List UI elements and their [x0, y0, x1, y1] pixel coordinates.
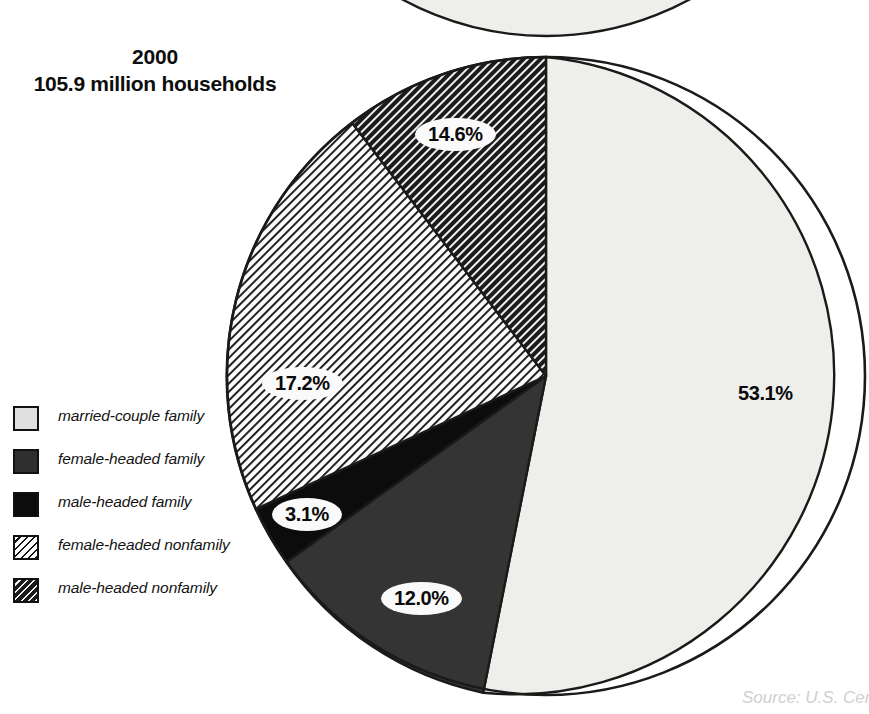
chart-title-year: 2000 [0, 44, 310, 70]
pie-slice-male-headed-family [256, 376, 546, 562]
cropped-source-caption: Source: U.S. Census Bureau [742, 688, 869, 710]
chart-subtitle-households: 105.9 million households [0, 71, 310, 97]
pie-value-label-male-headed-nonfamily: 14.6% [415, 118, 496, 151]
pie-value-label-female-headed-nonfamily: 17.2% [262, 367, 343, 400]
legend-label-female-headed-nonfamily: female-headed nonfamily [58, 536, 230, 554]
previous-chart-partial-arc [0, 0, 869, 40]
pie-value-label-female-headed-family: 12.0% [381, 582, 462, 615]
legend-label-male-headed-nonfamily: male-headed nonfamily [58, 579, 217, 597]
legend-swatch-married-couple-family [13, 406, 39, 431]
legend-item-married-couple-family: married-couple family [13, 404, 248, 447]
pie-value-label-married-couple-family: 53.1% [738, 383, 793, 403]
legend-item-male-headed-family: male-headed family [13, 490, 248, 533]
pie-slice-female-headed-nonfamily [227, 123, 546, 509]
chart-canvas: 2000 105.9 million households [0, 0, 869, 714]
legend-swatch-male-headed-nonfamily [13, 578, 39, 603]
legend-label-male-headed-family: male-headed family [58, 493, 191, 511]
chart-legend: married-couple family female-headed fami… [13, 404, 248, 619]
legend-swatch-male-headed-family [13, 492, 39, 517]
legend-label-female-headed-family: female-headed family [58, 450, 204, 468]
legend-item-female-headed-nonfamily: female-headed nonfamily [13, 533, 248, 576]
pie-slice-male-headed-nonfamily [352, 57, 546, 376]
legend-swatch-female-headed-nonfamily [13, 535, 39, 560]
pie-slice-female-headed-family [286, 376, 546, 693]
legend-swatch-female-headed-family [13, 449, 39, 474]
legend-label-married-couple-family: married-couple family [58, 407, 204, 425]
pie-slice-married-couple-family [483, 57, 834, 694]
legend-item-female-headed-family: female-headed family [13, 447, 248, 490]
legend-item-male-headed-nonfamily: male-headed nonfamily [13, 576, 248, 619]
pie-value-label-male-headed-family: 3.1% [272, 498, 342, 531]
